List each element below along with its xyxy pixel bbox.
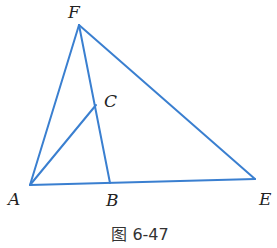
figure-caption: 图 6-47: [111, 225, 168, 244]
point-label-A: A: [6, 189, 20, 209]
point-label-E: E: [258, 189, 272, 209]
point-label-F: F: [67, 2, 81, 22]
segment-AC: [30, 105, 96, 185]
geometry-figure: F C A B E 图 6-47: [0, 0, 277, 248]
point-label-B: B: [105, 190, 119, 210]
point-label-C: C: [104, 91, 117, 111]
segment-AE: [30, 179, 255, 185]
segment-FA: [30, 25, 79, 185]
